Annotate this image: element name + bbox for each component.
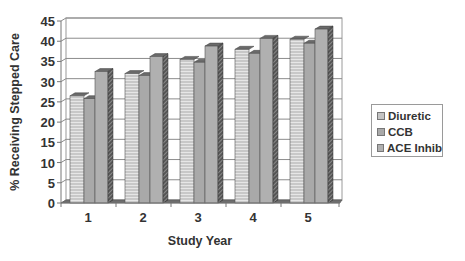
x-tick-label: 4	[249, 210, 257, 225]
bar-group-year-2	[125, 54, 168, 203]
x-tick-label: 1	[84, 210, 91, 225]
bar-ace-inhib	[205, 46, 218, 203]
x-tick-label: 2	[139, 210, 146, 225]
y-tick-label: 25	[41, 95, 55, 110]
x-tick-label: 5	[304, 210, 311, 225]
x-axis-title: Study Year	[168, 234, 233, 248]
legend-item-diuretic: Diuretic	[377, 108, 442, 124]
bar-group-year-3	[180, 43, 223, 203]
y-tick-label: 35	[41, 54, 55, 69]
bar-ace-inhib	[315, 29, 328, 203]
bar-diuretic	[70, 96, 84, 203]
bar-side-ace-inhib	[108, 69, 113, 203]
bar-ccb	[194, 62, 205, 203]
bar-ccb	[249, 53, 260, 203]
legend-swatch-diuretic	[377, 112, 385, 120]
bar-ccb	[304, 43, 315, 203]
y-tick-label: 20	[41, 115, 55, 130]
bar-side-ace-inhib	[163, 54, 168, 203]
legend-item-ace-inhib: ACE Inhib	[377, 140, 442, 156]
y-tick-label: 30	[41, 75, 55, 90]
x-axis: 12345	[61, 203, 340, 225]
bar-diuretic	[125, 74, 139, 203]
legend-swatch-ace-inhib	[377, 144, 384, 152]
bar-group-year-4	[235, 35, 278, 203]
bar-ccb	[139, 76, 150, 203]
bar-group-year-5	[290, 26, 333, 203]
bar-ace-inhib	[260, 38, 273, 203]
y-tick-label: 15	[41, 135, 55, 150]
y-tick-label: 5	[48, 176, 55, 191]
y-axis: 051015202530354045	[41, 14, 61, 211]
legend-label: Diuretic	[388, 110, 431, 122]
legend-label: CCB	[388, 126, 413, 138]
bar-side-ace-inhib	[218, 43, 223, 203]
x-tick-label: 3	[194, 210, 201, 225]
legend-item-ccb: CCB	[377, 124, 442, 140]
bar-diuretic	[235, 49, 249, 203]
y-tick-label: 40	[41, 34, 55, 49]
bar-side-ace-inhib	[273, 35, 278, 203]
bar-ace-inhib	[95, 72, 108, 203]
legend-label: ACE Inhib	[387, 142, 442, 154]
chart-legend: Diuretic CCB ACE Inhib	[371, 104, 443, 157]
y-tick-label: 10	[41, 156, 55, 171]
bar-diuretic	[180, 59, 194, 203]
bar-side-ace-inhib	[328, 26, 333, 203]
bar-diuretic	[290, 39, 304, 203]
bar-ccb	[84, 99, 95, 203]
legend-swatch-ccb	[377, 128, 385, 136]
y-tick-label: 45	[41, 14, 55, 29]
y-tick-label: 0	[48, 196, 55, 211]
bar-ace-inhib	[150, 57, 163, 203]
y-axis-title: % Receiving Stepped Care	[8, 33, 22, 191]
